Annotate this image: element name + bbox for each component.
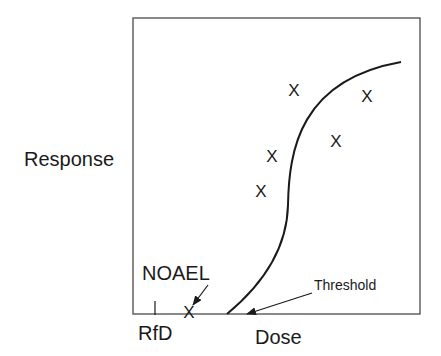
- plot-canvas: [0, 0, 441, 356]
- rfd-label: RfD: [138, 323, 172, 343]
- noael-label: NOAEL: [142, 263, 210, 283]
- data-point-marker: X: [266, 148, 277, 165]
- data-point-marker: X: [288, 82, 299, 99]
- noael-arrow: [193, 285, 208, 305]
- x-axis-label: Dose: [255, 327, 302, 347]
- data-point-marker: X: [330, 133, 341, 150]
- threshold-label: Threshold: [314, 278, 376, 292]
- threshold-arrow: [247, 293, 312, 314]
- y-axis-label: Response: [24, 149, 114, 169]
- data-point-marker: X: [255, 183, 266, 200]
- data-point-marker: X: [361, 88, 372, 105]
- data-point-marker: X: [183, 304, 194, 321]
